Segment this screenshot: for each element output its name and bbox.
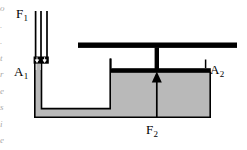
- label-area-1-subscript: 1: [24, 71, 29, 81]
- label-force-1: F1: [16, 6, 28, 23]
- narrow-tube: [36, 11, 47, 63]
- label-force-2: F2: [146, 122, 158, 139]
- label-force-2-base: F: [146, 122, 153, 137]
- piston-stem: [155, 48, 159, 72]
- label-area-1-base: A: [14, 64, 23, 79]
- label-area-2-base: A: [210, 62, 219, 77]
- label-force-1-subscript: 1: [24, 13, 29, 23]
- narrow-tube-fluid: [36, 64, 41, 70]
- large-piston: [110, 68, 211, 73]
- air-cavity: [42, 58, 111, 109]
- figure-canvas: o . . t r e s i e: [0, 0, 247, 150]
- label-force-1-base: F: [16, 6, 23, 21]
- label-area-1: A1: [14, 64, 28, 81]
- label-force-2-subscript: 2: [154, 129, 159, 139]
- label-area-2: A2: [210, 62, 224, 79]
- lever-bar: [78, 43, 237, 48]
- label-area-2-subscript: 2: [220, 69, 225, 79]
